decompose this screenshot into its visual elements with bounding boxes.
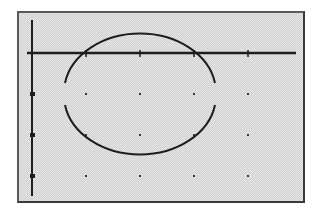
grid-dots xyxy=(85,93,249,177)
x-axis xyxy=(27,50,296,57)
plot-area xyxy=(0,0,320,215)
y-axis xyxy=(30,20,35,196)
